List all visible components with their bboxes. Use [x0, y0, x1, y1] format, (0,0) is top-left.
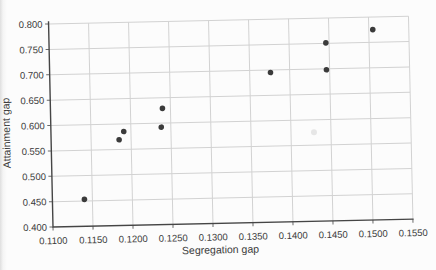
x-tick-label: 0.1100 [39, 235, 68, 247]
y-tick-labels: 0.4000.4500.5000.5500.6000.6500.7000.750… [19, 19, 47, 233]
scanned-chart-screenshot: 0.11000.11500.12000.12500.13000.13500.14… [0, 0, 436, 270]
y-tick-label: 0.650 [20, 95, 44, 107]
gridlines [49, 16, 413, 227]
data-points [78, 27, 379, 202]
y-tick-label: 0.700 [20, 69, 44, 81]
h-gridline [52, 194, 412, 202]
x-tick-label: 0.1200 [119, 233, 148, 245]
y-tick-label: 0.550 [21, 145, 45, 157]
y-tick-label: 0.800 [19, 19, 43, 31]
y-tick-label: 0.450 [23, 196, 47, 208]
x-tick-label: 0.1400 [279, 229, 308, 241]
y-tick-label: 0.600 [21, 120, 45, 132]
x-tick-label: 0.1450 [319, 229, 348, 241]
x-tick-label: 0.1150 [79, 234, 108, 246]
x-tick-label: 0.1550 [399, 227, 428, 239]
data-point [121, 129, 127, 135]
h-gridline [50, 67, 410, 75]
h-gridline [50, 92, 410, 100]
data-point [116, 137, 122, 143]
h-gridline [49, 42, 409, 50]
h-gridline [49, 16, 409, 24]
y-tick-label: 0.750 [19, 44, 43, 56]
y-tick-label: 0.500 [22, 171, 46, 183]
x-tick-label: 0.1300 [199, 231, 228, 243]
data-point [323, 40, 329, 46]
h-gridline [52, 168, 412, 176]
y-axis-title: Attainment gap [0, 97, 13, 168]
x-tick-label: 0.1250 [159, 232, 188, 244]
h-gridline [51, 118, 411, 126]
scan-smudge-artifact [311, 129, 317, 135]
data-point [160, 106, 166, 112]
data-point [324, 67, 330, 73]
x-tick-label: 0.1350 [239, 230, 268, 242]
scatter-plot: 0.11000.11500.12000.12500.13000.13500.14… [0, 0, 436, 270]
x-axis-title: Segregation gap [182, 243, 259, 257]
h-gridline [51, 143, 411, 151]
x-tick-label: 0.1500 [359, 228, 388, 240]
data-point [370, 27, 376, 33]
y-tick-label: 0.400 [23, 222, 47, 234]
data-point [158, 124, 164, 130]
